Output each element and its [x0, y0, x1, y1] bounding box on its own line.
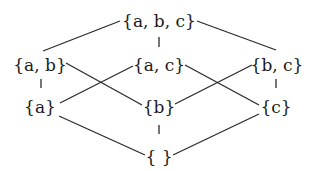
hasse-diagram: {a, b, c}{a, b}{a, c}{b, c}{a}{b}{c}{ }: [0, 0, 313, 171]
edges-group: [41, 21, 276, 155]
node-ac: {a, c}: [133, 55, 185, 75]
node-empty: { }: [145, 147, 172, 167]
node-b: {b}: [143, 97, 176, 117]
edge-c-empty: [173, 114, 259, 155]
edge-ab-b: [66, 63, 142, 105]
edge-ac-a: [60, 66, 133, 103]
node-ab: {a, b}: [13, 55, 66, 75]
node-a: {a}: [24, 97, 56, 117]
edge-abc-bc: [197, 21, 276, 50]
edge-bc-b: [175, 65, 252, 104]
edge-a-empty: [59, 116, 145, 155]
node-c: {c}: [260, 97, 291, 117]
edge-ac-c: [185, 65, 259, 105]
node-abc: {a, b, c}: [122, 11, 196, 31]
edge-abc-ab: [43, 21, 120, 51]
node-bc: {b, c}: [251, 55, 304, 75]
nodes-group: {a, b, c}{a, b}{a, c}{b, c}{a}{b}{c}{ }: [13, 11, 303, 167]
